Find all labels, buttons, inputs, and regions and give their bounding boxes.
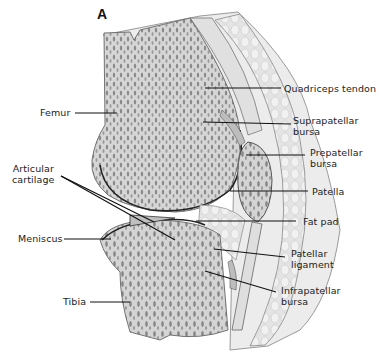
panel-letter: A <box>97 6 107 22</box>
label-prepatellar-bursa: Prepatellar bursa <box>310 147 363 169</box>
label-infrapatellar-bursa: Infrapatellar bursa <box>281 285 341 307</box>
tibia <box>100 220 228 340</box>
label-meniscus: Meniscus <box>18 233 63 244</box>
label-patellar-ligament: Patellar ligament <box>291 248 334 270</box>
label-fat-pad: Fat pad <box>303 216 339 227</box>
label-femur: Femur <box>40 107 70 118</box>
label-suprapatellar-bursa: Suprapatellar bursa <box>293 115 359 137</box>
label-articular-cartilage: Articular cartilage <box>12 163 55 185</box>
label-tibia: Tibia <box>63 296 86 307</box>
label-quadriceps-tendon: Quadriceps tendon <box>284 83 376 94</box>
knee-anatomy-figure: A Femur Articular cartilage Meniscus Tib… <box>0 0 384 359</box>
label-patella: Patella <box>312 186 345 197</box>
